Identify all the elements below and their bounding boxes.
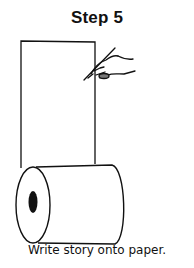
illustration: [0, 0, 194, 268]
step-caption: Write story onto paper.: [0, 243, 194, 257]
paper-sheet: [21, 41, 95, 168]
paper-roll: [16, 165, 124, 244]
roll-core: [29, 191, 38, 213]
hand-holding-pen-icon: [84, 48, 135, 80]
